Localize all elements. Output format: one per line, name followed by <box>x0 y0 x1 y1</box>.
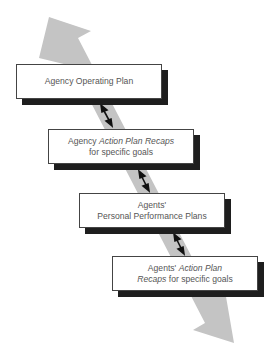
box-text: for specific goals <box>166 274 232 284</box>
box-face: Agents' Action Plan Recaps for specific … <box>112 256 258 291</box>
box-text-italic: Action Plan <box>179 263 222 273</box>
box-text: for specific goals <box>89 147 153 157</box>
box-text: Agency Operating Plan <box>45 76 133 86</box>
box-agents-personal-performance-plans: Agents' Personal Performance Plans <box>79 193 225 228</box>
box-agency-action-plan-recaps: Agency Action Plan Recaps for specific g… <box>48 129 194 164</box>
box-text-italic: Action Plan Recaps <box>99 136 174 146</box>
box-agency-operating-plan: Agency Operating Plan <box>16 64 162 99</box>
box-text: Personal Performance Plans <box>97 211 206 221</box>
box-text: Agents' <box>138 200 166 210</box>
box-text: Agency <box>68 136 99 146</box>
box-agents-action-plan-recaps: Agents' Action Plan Recaps for specific … <box>112 256 258 291</box>
main-bidirectional-arrow <box>0 0 278 355</box>
box-text-italic: Recaps <box>137 274 166 284</box>
box-face: Agents' Personal Performance Plans <box>79 193 225 228</box>
box-face: Agency Action Plan Recaps for specific g… <box>48 129 194 164</box>
box-face: Agency Operating Plan <box>16 64 162 99</box>
box-text: Agents' <box>148 263 179 273</box>
